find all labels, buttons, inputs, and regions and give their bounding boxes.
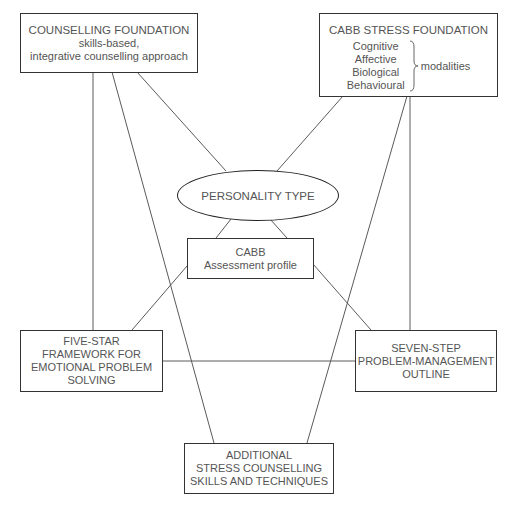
node-cabb-stress-foundation: CABB STRESS FOUNDATION Cognitive Affecti… — [319, 13, 498, 97]
five-star-line4: SOLVING — [67, 374, 115, 387]
five-star-line1: FIVE-STAR — [63, 335, 120, 348]
edge-personality-to-assessment-left — [216, 219, 231, 238]
edge-cabb-stress-to-personality — [277, 96, 343, 171]
edge-counselling-to-personality — [137, 72, 226, 171]
modalities-list: Cognitive Affective Biological Behaviour… — [347, 40, 405, 92]
modality-behavioural: Behavioural — [347, 79, 405, 92]
additional-line2: STRESS COUNSELLING — [196, 462, 322, 475]
edge-assessment-to-five-star — [132, 266, 187, 330]
seven-step-line1: SEVEN-STEP — [391, 342, 461, 355]
diagram-canvas: COUNSELLING FOUNDATION skills-based, int… — [0, 0, 512, 509]
modality-biological: Biological — [352, 66, 399, 79]
counselling-foundation-line2: skills-based, — [79, 37, 140, 50]
edge-personality-to-assessment-right — [270, 219, 287, 238]
cabb-assessment-line1: CABB — [236, 246, 266, 259]
node-personality-type: PERSONALITY TYPE — [177, 170, 339, 221]
node-counselling-foundation: COUNSELLING FOUNDATION skills-based, int… — [20, 13, 198, 73]
cabb-stress-foundation-title: CABB STRESS FOUNDATION — [329, 24, 488, 37]
five-star-line3: EMOTIONAL PROBLEM — [31, 361, 152, 374]
modalities-label: modalities — [421, 60, 471, 73]
additional-line1: ADDITIONAL — [226, 449, 292, 462]
personality-type-label: PERSONALITY TYPE — [201, 190, 314, 202]
counselling-foundation-line3: integrative counselling approach — [30, 50, 188, 63]
modalities-group: Cognitive Affective Biological Behaviour… — [347, 39, 471, 93]
five-star-line2: FRAMEWORK FOR — [42, 348, 141, 361]
node-five-star-framework: FIVE-STAR FRAMEWORK FOR EMOTIONAL PROBLE… — [20, 330, 163, 392]
seven-step-line2: PROBLEM-MANAGEMENT — [358, 355, 494, 368]
modality-affective: Affective — [355, 53, 397, 66]
node-seven-step-outline: SEVEN-STEP PROBLEM-MANAGEMENT OUTLINE — [355, 330, 497, 392]
node-cabb-assessment: CABB Assessment profile — [187, 238, 314, 279]
additional-line3: SKILLS AND TECHNIQUES — [190, 475, 328, 488]
curly-brace-icon — [408, 39, 420, 93]
counselling-foundation-title: COUNSELLING FOUNDATION — [29, 24, 190, 37]
seven-step-line3: OUTLINE — [402, 368, 450, 381]
modality-cognitive: Cognitive — [353, 40, 399, 53]
cabb-assessment-line2: Assessment profile — [204, 259, 297, 272]
node-additional-skills: ADDITIONAL STRESS COUNSELLING SKILLS AND… — [184, 443, 334, 494]
